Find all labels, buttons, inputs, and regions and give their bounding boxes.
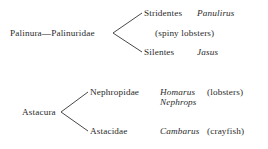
- branch-line-stridentes: [113, 13, 142, 33]
- taxon-label-nephropidae: Nephropidae: [90, 88, 139, 97]
- common-name-crayfish: (crayfish): [207, 127, 244, 136]
- genus-label-cambarus: Cambarus: [160, 127, 200, 136]
- clade-root-label-palinura: Palinura—Palinuridae: [10, 29, 95, 38]
- genus-label-jasus: Jasus: [197, 48, 218, 57]
- branch-line-astacidae: [61, 112, 88, 131]
- taxon-label-stridentes: Stridentes: [144, 9, 182, 18]
- taxon-label-silentes: Silentes: [144, 48, 174, 57]
- genus-label-panulirus: Panulirus: [197, 9, 235, 18]
- common-name-lobsters: (lobsters): [207, 88, 243, 97]
- genus-label-nephrops: Nephrops: [160, 98, 197, 107]
- cladogram-figure: Palinura—Palinuridae Stridentes Panuliru…: [0, 0, 268, 149]
- clade-root-label-astacura: Astacura: [22, 108, 56, 117]
- branch-line-nephropidae: [61, 92, 88, 112]
- common-name-spiny-lobsters: (spiny lobsters): [155, 29, 214, 38]
- genus-label-homarus: Homarus: [160, 88, 195, 97]
- branch-line-silentes: [113, 33, 142, 52]
- taxon-label-astacidae: Astacidae: [90, 127, 128, 136]
